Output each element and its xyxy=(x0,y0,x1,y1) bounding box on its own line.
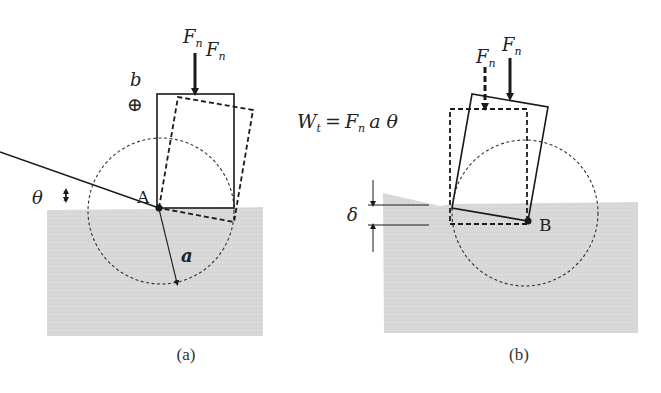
force-label-b-dashed: Fn xyxy=(475,46,496,70)
panel-a: Fn Fn b ⊕ A θ a (a) xyxy=(0,26,263,364)
caption-b: (b) xyxy=(509,345,529,364)
tilt-line-a xyxy=(0,152,159,208)
wear-equation: Wt=Fna θ xyxy=(297,110,399,135)
wear-diagram: Fn Fn b ⊕ A θ a (a) Wt=Fna θ xyxy=(0,0,661,393)
width-into-page-icon: ⊕ xyxy=(127,93,143,115)
force-label-b-solid: Fn xyxy=(501,34,522,58)
ground-block-a xyxy=(47,207,263,336)
force-label-a-left: Fn xyxy=(182,26,203,50)
displacement-label: δ xyxy=(347,204,358,225)
pivot-label-b: B xyxy=(539,215,552,235)
pivot-point-a xyxy=(156,205,163,212)
force-label-a-right: Fn xyxy=(205,39,226,63)
pivot-label-a: A xyxy=(136,187,150,207)
block-rotated-a xyxy=(159,97,253,222)
caption-a: (a) xyxy=(177,345,196,364)
angle-indicator xyxy=(64,191,66,201)
panel-b: Fn Fn B δ (b) xyxy=(347,34,638,364)
width-label: b xyxy=(130,69,142,90)
ground-block-b xyxy=(383,193,638,333)
pivot-point-b xyxy=(525,218,532,225)
radius-label: a xyxy=(181,245,193,266)
block-rotated-b xyxy=(452,94,548,221)
angle-label: θ xyxy=(32,187,43,208)
